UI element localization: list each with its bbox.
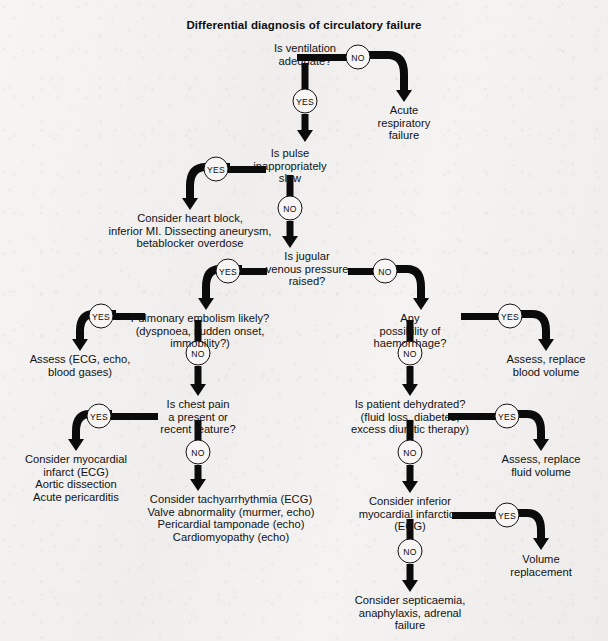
text-layer: Is ventilation adequate? Acute respirato… bbox=[0, 0, 608, 641]
node-ventilation: Is ventilation adequate? bbox=[235, 42, 375, 67]
node-inferior-mi: Consider inferior myocardial infarction … bbox=[330, 495, 490, 533]
node-pulse: Is pulse inappropriately slow bbox=[220, 147, 360, 185]
node-septicaemia: Consider septicaemia, anaphylaxis, adren… bbox=[325, 594, 495, 632]
node-acute-resp: Acute respiratory failure bbox=[349, 104, 459, 142]
node-replace-fluid: Assess, replace fluid volume bbox=[481, 453, 601, 478]
node-volume-replacement: Volume replacement bbox=[481, 553, 601, 578]
node-dehydrated: Is patient dehydrated? (fluid loss, diab… bbox=[315, 398, 505, 436]
node-heart-block: Consider heart block, inferior MI. Disse… bbox=[75, 212, 305, 250]
node-assess-pe: Assess (ECG, echo, blood gases) bbox=[10, 353, 150, 378]
node-replace-blood: Assess, replace blood volume bbox=[486, 353, 606, 378]
node-tachyarrhythmia: Consider tachyarrhythmia (ECG) Valve abn… bbox=[116, 493, 346, 543]
node-jvp: Is jugular venous pressure raised? bbox=[232, 250, 382, 288]
node-chest-pain: Is chest pain a present or recent featur… bbox=[133, 398, 263, 436]
node-haemorrhage: Any possibility of haemorrhage? bbox=[350, 312, 470, 350]
node-pulmonary-embolism: Pulmonary embolism likely? (dyspnoea, su… bbox=[100, 312, 300, 350]
